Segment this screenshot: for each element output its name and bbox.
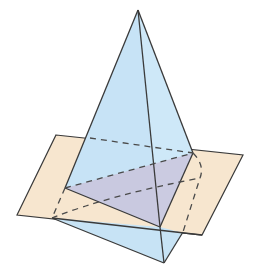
diagram-canvas xyxy=(0,0,263,279)
pyramid-plane-diagram xyxy=(0,0,263,279)
